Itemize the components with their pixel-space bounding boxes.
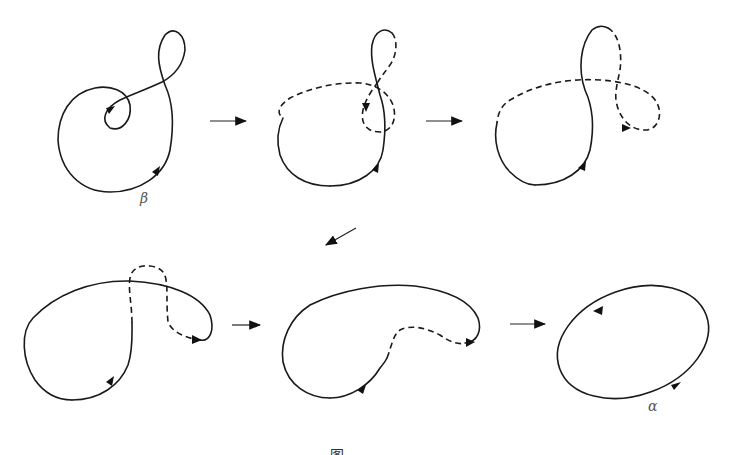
panel-2-loop <box>278 30 396 186</box>
figure-caption: 图 <box>330 447 344 455</box>
homotopy-diagram <box>0 0 734 455</box>
panel-4-loop <box>24 266 212 400</box>
label-alpha: α <box>648 398 657 414</box>
panel-5-loop <box>282 285 479 398</box>
arrow-3-to-4 <box>326 228 356 245</box>
panel-1-beta-loop <box>58 31 185 192</box>
panel-6-alpha-loop <box>542 266 725 419</box>
label-beta: β <box>140 190 148 206</box>
panel-3-loop <box>496 26 660 185</box>
